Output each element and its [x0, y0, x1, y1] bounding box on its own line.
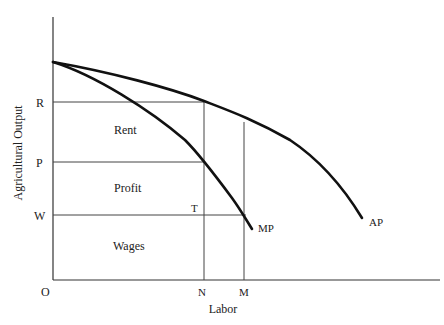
origin-label: O [41, 285, 50, 299]
point-t-label: T [191, 202, 198, 214]
y-tick-r: R [36, 96, 44, 110]
ap-curve-label: AP [369, 216, 383, 228]
y-tick-p: P [36, 156, 43, 170]
x-tick-m: M [239, 286, 249, 298]
mp-curve-label: MP [258, 222, 274, 234]
y-tick-w: W [34, 209, 46, 223]
ap-curve [53, 62, 362, 218]
mp-curve [53, 62, 252, 229]
y-axis-title: Agricultural Output [11, 105, 25, 201]
region-profit-label: Profit [114, 181, 142, 195]
region-wages-label: Wages [113, 239, 145, 253]
region-rent-label: Rent [114, 123, 137, 137]
rent-profit-wages-diagram: R P W O N M Labor Agricultural Output Re… [0, 0, 444, 325]
x-tick-n: N [198, 286, 206, 298]
x-axis-title: Labor [209, 302, 238, 316]
